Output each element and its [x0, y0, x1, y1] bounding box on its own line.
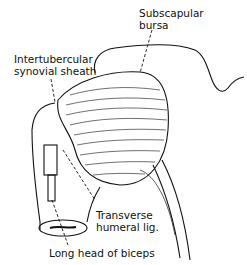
label-subscapular-bursa: Subscapular bursa — [139, 7, 204, 31]
label-line: Transverse — [96, 209, 159, 221]
label-line: Subscapular — [139, 7, 204, 19]
label-line: Long head of biceps — [49, 247, 155, 259]
label-line: synovial sheath — [14, 65, 96, 77]
label-line: Intertubercular — [14, 53, 96, 65]
label-transverse-humeral: Transverse humeral lig. — [96, 209, 159, 233]
label-intertubercular-sheath: Intertubercular synovial sheath — [14, 53, 96, 77]
label-line: humeral lig. — [96, 221, 159, 233]
label-long-head-biceps: Long head of biceps — [49, 247, 155, 259]
label-line: bursa — [139, 19, 204, 31]
